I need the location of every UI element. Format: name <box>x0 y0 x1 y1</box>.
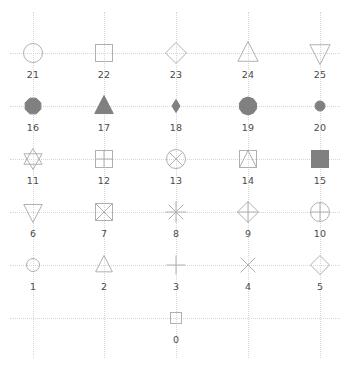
marker-code-label: 24 <box>218 69 278 80</box>
marker-code-label: 4 <box>218 281 278 292</box>
marker-code-label: 5 <box>290 281 349 292</box>
marker-code-label: 12 <box>74 175 134 186</box>
marker-code-label: 20 <box>290 122 349 133</box>
marker-code-label: 3 <box>146 281 206 292</box>
marker-code-label: 1 <box>3 281 63 292</box>
marker-reference-chart: 0123456789101112131415161718192021222324… <box>0 0 349 370</box>
marker-code-label: 15 <box>290 175 349 186</box>
marker-code-label: 17 <box>74 122 134 133</box>
marker-code-label: 6 <box>3 228 63 239</box>
marker-label-layer: 0123456789101112131415161718192021222324… <box>0 0 349 370</box>
marker-code-label: 11 <box>3 175 63 186</box>
marker-code-label: 22 <box>74 69 134 80</box>
marker-code-label: 23 <box>146 69 206 80</box>
marker-code-label: 18 <box>146 122 206 133</box>
marker-code-label: 14 <box>218 175 278 186</box>
marker-code-label: 0 <box>146 334 206 345</box>
marker-code-label: 7 <box>74 228 134 239</box>
marker-code-label: 19 <box>218 122 278 133</box>
marker-code-label: 21 <box>3 69 63 80</box>
marker-code-label: 2 <box>74 281 134 292</box>
marker-code-label: 10 <box>290 228 349 239</box>
marker-code-label: 16 <box>3 122 63 133</box>
marker-code-label: 9 <box>218 228 278 239</box>
marker-code-label: 25 <box>290 69 349 80</box>
marker-code-label: 8 <box>146 228 206 239</box>
marker-code-label: 13 <box>146 175 206 186</box>
